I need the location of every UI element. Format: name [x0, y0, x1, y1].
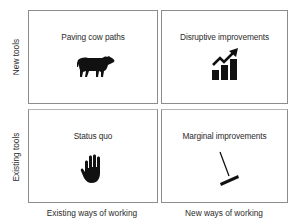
cow-icon [76, 55, 116, 79]
quadrant-label: Status quo [29, 131, 157, 141]
x-axis-label-existing-ways: Existing ways of working [47, 208, 137, 218]
rising-chart-icon [211, 48, 240, 81]
quadrant-disruptive-improvements: Disruptive improvements [161, 10, 288, 104]
quadrant-paving-cow-paths: Paving cow paths [28, 10, 158, 104]
y-axis-label-existing-tools: Existing tools [11, 133, 21, 182]
quadrant-label: Marginal improvements [162, 131, 287, 141]
y-axis-label-new-tools: New tools [11, 39, 21, 75]
quadrant-label: Disruptive improvements [162, 32, 287, 42]
x-axis-label-new-ways: New ways of working [185, 208, 263, 218]
quadrant-marginal-improvements: Marginal improvements [161, 109, 288, 203]
hand-stop-icon [80, 154, 104, 184]
quadrant-status-quo: Status quo [28, 109, 158, 203]
rake-icon [217, 151, 241, 188]
quadrant-label: Paving cow paths [29, 32, 157, 42]
